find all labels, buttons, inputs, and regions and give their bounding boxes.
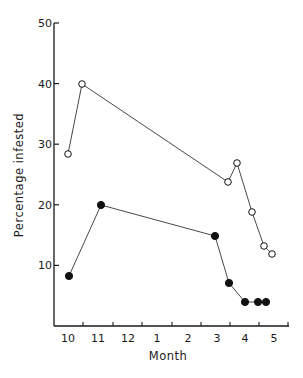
open-circle-marker bbox=[261, 243, 268, 250]
y-tick-label: 10 bbox=[38, 259, 52, 272]
x-axis-title: Month bbox=[149, 349, 188, 363]
open-circle-marker bbox=[269, 251, 276, 258]
open-circle-marker bbox=[249, 209, 256, 216]
filled-circle-marker bbox=[211, 232, 218, 239]
x-tick-label: 4 bbox=[242, 332, 249, 345]
y-axis-title: Percentage infested bbox=[12, 113, 26, 237]
y-tick-label: 40 bbox=[38, 78, 52, 91]
x-tick-label: 10 bbox=[61, 332, 75, 345]
x-tick-label: 2 bbox=[185, 332, 192, 345]
x-tick-label: 5 bbox=[271, 332, 278, 345]
y-tick-label: 50 bbox=[38, 17, 52, 30]
x-tick-label: 3 bbox=[214, 332, 221, 345]
open-circle-marker bbox=[225, 179, 232, 186]
open-circle-marker bbox=[79, 81, 86, 88]
x-tick-label: 11 bbox=[91, 332, 105, 345]
y-tick-label: 20 bbox=[38, 199, 52, 212]
series-open-circles-line bbox=[68, 84, 272, 254]
series-open-circles bbox=[65, 81, 276, 258]
series bbox=[65, 81, 276, 306]
filled-circle-marker bbox=[65, 272, 72, 279]
open-circle-marker bbox=[234, 160, 241, 167]
axes bbox=[54, 23, 289, 326]
filled-circle-marker bbox=[97, 201, 104, 208]
filled-circle-marker bbox=[254, 298, 261, 305]
open-circle-marker bbox=[65, 151, 72, 158]
filled-circle-marker bbox=[225, 279, 232, 286]
filled-circle-marker bbox=[241, 298, 248, 305]
series-filled-circles bbox=[65, 201, 269, 305]
series-filled-circles-line bbox=[69, 205, 266, 302]
y-tick-label: 30 bbox=[38, 138, 52, 151]
filled-circle-marker bbox=[262, 298, 269, 305]
chart: 1020304050 10111212345 Month Percentage … bbox=[0, 0, 303, 378]
x-tick-label: 1 bbox=[154, 332, 161, 345]
y-ticks: 1020304050 bbox=[38, 17, 59, 272]
x-tick-label: 12 bbox=[121, 332, 135, 345]
